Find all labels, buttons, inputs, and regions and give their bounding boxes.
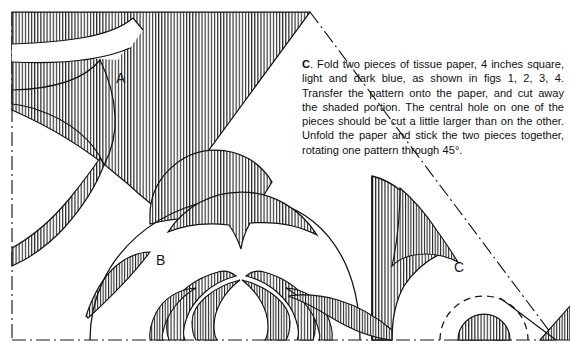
caption-lead-letter: C	[302, 58, 310, 70]
figure-label-c: C	[454, 259, 464, 275]
figure-label-a: A	[116, 70, 126, 86]
figure-label-b: B	[156, 252, 166, 268]
pattern-illustration	[0, 0, 570, 350]
caption-text: C. Fold two pieces of tissue paper, 4 in…	[302, 57, 564, 157]
caption-body: Fold two pieces of tissue paper, 4 inche…	[302, 58, 564, 156]
figure-diagram: A B C C. Fold two pieces of tissue paper…	[0, 0, 570, 350]
